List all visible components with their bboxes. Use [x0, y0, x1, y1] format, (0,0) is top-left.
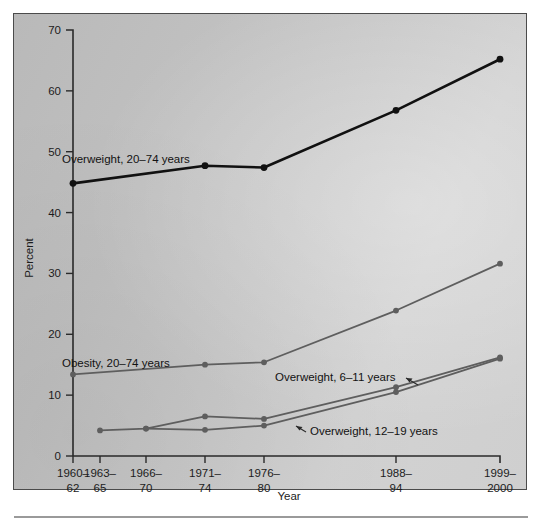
x-tick-label-bottom: 80 [258, 482, 271, 494]
label-overweight-adults: Overweight, 20–74 years [62, 153, 190, 165]
series-line [146, 359, 500, 430]
x-tick-label-top: 1963– [84, 467, 117, 479]
data-point [261, 416, 267, 422]
y-tick-label: 60 [48, 85, 61, 97]
y-tick-label: 50 [48, 146, 61, 158]
x-tick-label-bottom: 70 [140, 482, 153, 494]
y-tick-label: 10 [48, 389, 61, 401]
data-point [202, 162, 209, 169]
y-tick-label: 70 [48, 24, 61, 36]
series-overweight-20-74-years [70, 56, 504, 187]
axis-group: 010203040506070 1960–621963–651966–70197… [48, 24, 516, 494]
data-point [97, 428, 103, 434]
data-point [497, 261, 503, 267]
data-point [497, 356, 503, 362]
y-axis-title: Percent [23, 237, 35, 277]
x-tick-label-bottom: 65 [94, 482, 107, 494]
data-point [393, 389, 399, 395]
y-tick-label: 0 [55, 450, 61, 462]
x-axis-ticks: 1960–621963–651966–701971–741976–801988–… [57, 456, 517, 494]
x-tick-label-top: 1976– [248, 467, 281, 479]
data-point [393, 308, 399, 314]
x-axis-line [73, 456, 500, 463]
label-overweight-6-11: Overweight, 6–11 years [275, 371, 396, 383]
data-point [70, 372, 76, 378]
series-overweight-12-19-years [143, 356, 503, 433]
y-tick-label: 20 [48, 328, 61, 340]
data-point [261, 164, 268, 171]
data-point [202, 427, 208, 433]
data-point [261, 359, 267, 365]
y-axis-ticks: 010203040506070 [48, 24, 73, 462]
label-obesity-adults: Obesity, 20–74 years [62, 357, 170, 369]
x-axis-title: Year [277, 490, 300, 502]
data-point [70, 180, 77, 187]
x-tick-label-top: 1966– [130, 467, 163, 479]
data-point [143, 426, 149, 432]
x-tick-label-bottom: 2000 [487, 482, 513, 494]
x-tick-label-top: 1971– [189, 467, 222, 479]
annotation-layer: Overweight, 20–74 years Obesity, 20–74 y… [62, 153, 438, 437]
y-tick-label: 40 [48, 207, 61, 219]
x-tick-label-bottom: 74 [199, 482, 212, 494]
data-point [261, 423, 267, 429]
data-point [202, 414, 208, 420]
figure-page: 010203040506070 1960–621963–651966–70197… [0, 0, 542, 529]
label-overweight-12-19: Overweight, 12–19 years [310, 425, 438, 437]
line-chart: 010203040506070 1960–621963–651966–70197… [0, 0, 542, 529]
x-tick-label-bottom: 62 [67, 482, 80, 494]
x-tick-label-top: 1988– [380, 467, 413, 479]
data-point [497, 56, 504, 63]
x-tick-label-top: 1999– [484, 467, 517, 479]
x-tick-label-bottom: 94 [390, 482, 403, 494]
y-axis-line [66, 30, 73, 456]
data-point [393, 107, 400, 114]
y-tick-label: 30 [48, 267, 61, 279]
data-point [202, 362, 208, 368]
